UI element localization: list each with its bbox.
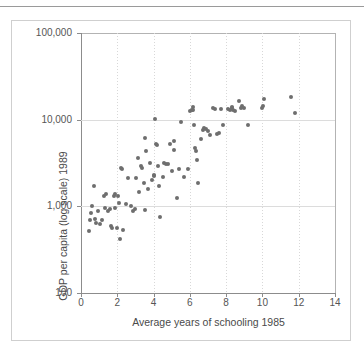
scatter-point xyxy=(126,176,130,180)
scatter-point xyxy=(261,104,265,108)
x-axis-title: Average years of schooling 1985 xyxy=(81,316,336,328)
y-axis-tick xyxy=(77,120,81,121)
scatter-point xyxy=(100,218,104,222)
y-axis-tick xyxy=(77,206,81,207)
x-gridline xyxy=(117,33,118,293)
scatter-point xyxy=(262,97,266,101)
scatter-point xyxy=(182,175,186,179)
scatter-point xyxy=(246,123,250,127)
scatter-point xyxy=(242,106,246,110)
plot-area xyxy=(81,33,335,293)
scatter-point xyxy=(192,123,196,127)
scatter-point xyxy=(191,105,195,109)
scatter-point xyxy=(87,229,91,233)
scatter-point xyxy=(120,167,124,171)
scatter-point xyxy=(118,237,122,241)
scatter-point xyxy=(293,111,297,115)
y-gridline xyxy=(81,120,335,121)
scatter-point xyxy=(213,107,217,111)
plot-wrapper: 02468101214 1001,00010,000100,000 Averag… xyxy=(0,0,364,352)
scatter-point xyxy=(115,226,119,230)
scatter-point xyxy=(237,99,241,103)
scatter-point xyxy=(136,156,140,160)
scatter-point xyxy=(233,109,237,113)
scatter-point xyxy=(196,181,200,185)
scatter-point xyxy=(96,209,100,213)
scatter-point xyxy=(90,204,94,208)
scatter-point xyxy=(155,143,159,147)
y-axis-tick xyxy=(77,33,81,34)
x-axis-tick-label: 4 xyxy=(134,297,174,308)
scatter-point xyxy=(221,123,225,127)
scatter-point xyxy=(208,133,212,137)
scatter-point xyxy=(150,178,154,182)
scatter-point xyxy=(195,158,199,162)
scatter-point xyxy=(161,175,165,179)
scatter-point xyxy=(134,176,138,180)
scatter-point xyxy=(217,131,221,135)
x-gridline xyxy=(154,33,155,293)
scatter-point xyxy=(92,184,96,188)
scatter-point xyxy=(117,201,121,205)
y-axis-title: GDP per capita (log scale) 1989 xyxy=(57,136,69,316)
scatter-point xyxy=(144,149,148,153)
x-gridline xyxy=(190,33,191,293)
scatter-point xyxy=(137,190,141,194)
scatter-point xyxy=(104,192,108,196)
y-axis-title-holder: GDP per capita (log scale) 1989 xyxy=(33,70,47,260)
y-gridline xyxy=(81,206,335,207)
scatter-point xyxy=(172,148,176,152)
x-axis-tick-label: 12 xyxy=(279,297,319,308)
y-axis-tick-label: 100,000 xyxy=(14,27,72,38)
x-axis-tick-label: 10 xyxy=(242,297,282,308)
y-axis-tick xyxy=(77,293,81,294)
scatter-point xyxy=(186,167,190,171)
scatter-point xyxy=(170,169,174,173)
scatter-point xyxy=(143,136,147,140)
scatter-point xyxy=(219,107,223,111)
scatter-point xyxy=(148,161,152,165)
scatter-point xyxy=(168,142,172,146)
x-gridline xyxy=(299,33,300,293)
x-axis-tick-label: 6 xyxy=(170,297,210,308)
scatter-point xyxy=(116,194,120,198)
x-gridline xyxy=(226,33,227,293)
plot-right-edge xyxy=(335,33,336,294)
scatter-point xyxy=(88,218,92,222)
scatter-point xyxy=(199,137,203,141)
scatter-point xyxy=(158,215,162,219)
x-axis-tick-label: 8 xyxy=(206,297,246,308)
scatter-point xyxy=(166,162,170,166)
x-gridline xyxy=(262,33,263,293)
scatter-point xyxy=(110,226,114,230)
scatter-point xyxy=(156,164,160,168)
scatter-point xyxy=(194,149,198,153)
scatter-point xyxy=(157,184,161,188)
scatter-point xyxy=(121,228,125,232)
scatter-point xyxy=(175,196,179,200)
x-axis-tick-label: 2 xyxy=(97,297,137,308)
scatter-point xyxy=(93,217,97,221)
scatter-point xyxy=(142,181,146,185)
scatter-point xyxy=(146,187,150,191)
scatter-point xyxy=(140,166,144,170)
scatter-point xyxy=(289,95,293,99)
scatter-point xyxy=(179,120,183,124)
scatter-point xyxy=(177,167,181,171)
scatter-point xyxy=(172,139,176,143)
scatter-point xyxy=(89,211,93,215)
scatter-point xyxy=(152,174,156,178)
x-axis-tick-label: 14 xyxy=(315,297,355,308)
scatter-point xyxy=(98,222,102,226)
scatter-point xyxy=(108,207,112,211)
figure-container: 02468101214 1001,00010,000100,000 Averag… xyxy=(0,0,364,352)
scatter-point xyxy=(143,208,147,212)
